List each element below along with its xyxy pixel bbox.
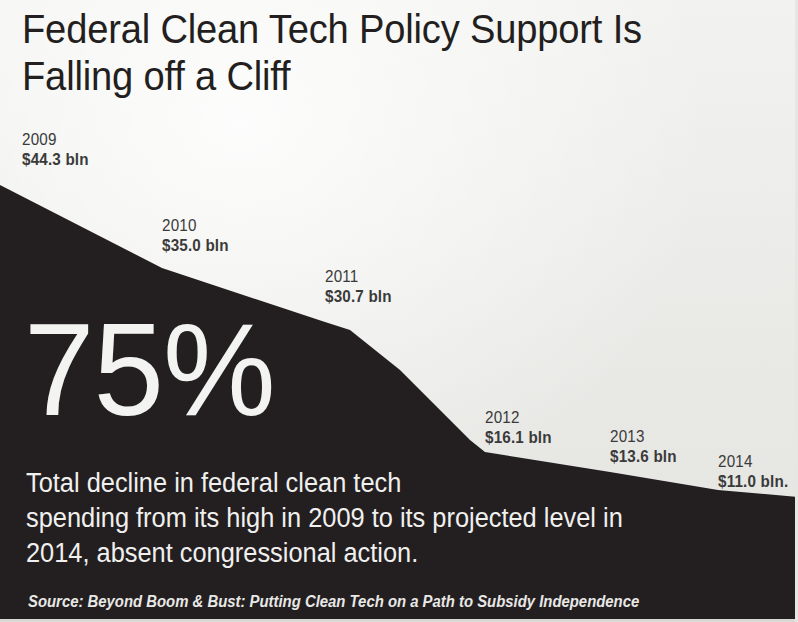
callout-2010-year: 2010 <box>162 216 229 236</box>
callout-2012-value: $16.1 bln <box>485 428 552 448</box>
callout-2009: 2009 $44.3 bln <box>22 130 89 170</box>
callout-2011: 2011 $30.7 bln <box>325 267 392 307</box>
callout-2012-year: 2012 <box>485 408 552 428</box>
description-line-2: spending from its high in 2009 to its pr… <box>26 501 684 536</box>
callout-2013-value: $13.6 bln <box>610 447 677 467</box>
callout-2011-value: $30.7 bln <box>325 287 392 307</box>
callout-2014: 2014 $11.0 bln. <box>718 452 788 492</box>
callout-2013-year: 2013 <box>610 427 677 447</box>
statistic-description: Total decline in federal clean tech spen… <box>26 466 684 571</box>
infographic-poster: Federal Clean Tech Policy Support Is Fal… <box>0 0 798 622</box>
callout-2012: 2012 $16.1 bln <box>485 408 552 448</box>
source-citation: Source: Beyond Boom & Bust: Putting Clea… <box>28 592 639 612</box>
description-line-1: Total decline in federal clean tech <box>26 466 684 501</box>
callout-2014-value: $11.0 bln. <box>718 472 788 492</box>
title-line-2: Falling off a Cliff <box>22 53 710 100</box>
description-line-3: 2014, absent congressional action. <box>26 536 684 571</box>
callout-2009-year: 2009 <box>22 130 89 150</box>
callout-2014-year: 2014 <box>718 452 788 472</box>
callout-2013: 2013 $13.6 bln <box>610 427 677 467</box>
headline-statistic: 75% <box>24 304 275 436</box>
callout-2010-value: $35.0 bln <box>162 236 229 256</box>
title-line-1: Federal Clean Tech Policy Support Is <box>22 6 710 53</box>
callout-2009-value: $44.3 bln <box>22 150 89 170</box>
callout-2011-year: 2011 <box>325 267 392 287</box>
callout-2010: 2010 $35.0 bln <box>162 216 229 256</box>
page-title: Federal Clean Tech Policy Support Is Fal… <box>22 6 710 100</box>
